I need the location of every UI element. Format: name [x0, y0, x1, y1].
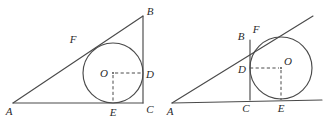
left-label-E: E [109, 106, 117, 118]
right-label-F: F [252, 23, 260, 35]
right-label-D: D [237, 63, 246, 75]
left-center-dot [112, 72, 114, 74]
right-label-O: O [284, 55, 292, 67]
geometry-figure-canvas: A B C O D E F A B C D E F O [0, 0, 330, 121]
right-label-A: A [166, 105, 174, 117]
left-label-A: A [5, 105, 13, 117]
right-center-dot [280, 67, 282, 69]
left-label-B: B [147, 5, 154, 17]
right-label-E: E [277, 102, 285, 114]
right-label-C: C [242, 102, 250, 114]
left-label-O: O [100, 67, 108, 79]
right-label-B: B [238, 30, 245, 42]
left-label-F: F [69, 33, 77, 45]
left-label-C: C [146, 103, 154, 115]
left-label-D: D [145, 68, 154, 80]
